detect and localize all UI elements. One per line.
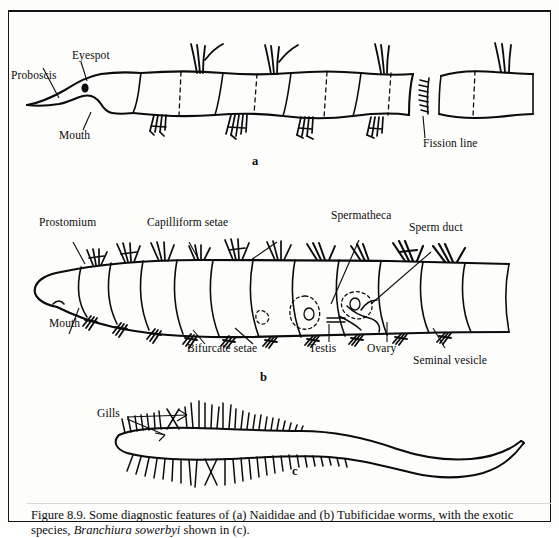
label-ovary: Ovary (367, 343, 396, 355)
panel-label-b: b (260, 370, 267, 385)
label-proboscis: Proboscis (11, 70, 57, 82)
label-gills: Gills (97, 408, 120, 420)
caption-line-2-post: shown in (c). (180, 523, 249, 537)
label-prostomium: Prostomium (39, 217, 96, 229)
label-sperm-duct: Sperm duct (409, 222, 463, 234)
label-seminal-vesicle: Seminal vesicle (413, 355, 487, 367)
label-capilliform-setae: Capilliform setae (147, 217, 228, 229)
diagram-b-leaders (9, 212, 544, 372)
label-mouth-b: Mouth (49, 318, 80, 330)
label-eyespot: Eyespot (72, 50, 110, 62)
label-testis: Testis (309, 343, 336, 355)
figure-frame: Proboscis Eyespot Mouth Fission line a (8, 10, 551, 522)
diagram-c-leaders (9, 397, 544, 497)
caption-line-1: Figure 8.9. Some diagnostic features of … (31, 508, 479, 522)
label-fission-line: Fission line (423, 138, 478, 150)
caption-divider (27, 503, 551, 504)
panel-label-c: c (292, 464, 298, 479)
figure-caption: Figure 8.9. Some diagnostic features of … (31, 508, 541, 538)
panel-label-a: a (252, 154, 258, 169)
label-bifurcate-setae: Bifurcate setae (187, 343, 257, 355)
caption-species-name: Branchiura sowerbyi (74, 523, 181, 537)
label-mouth-a: Mouth (59, 130, 90, 142)
label-spermatheca: Spermatheca (331, 210, 392, 222)
